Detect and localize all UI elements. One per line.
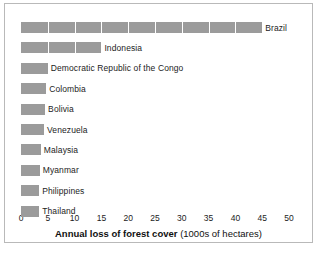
bar bbox=[21, 42, 101, 53]
gridline bbox=[262, 17, 263, 211]
bar-label: Indonesia bbox=[101, 43, 142, 53]
x-tick-label: 45 bbox=[257, 213, 266, 223]
x-tick-label: 15 bbox=[97, 213, 106, 223]
bar bbox=[21, 83, 46, 94]
bar-label: Myanmar bbox=[40, 165, 79, 175]
bar bbox=[21, 63, 48, 74]
bar bbox=[21, 206, 39, 217]
x-tick-label: 20 bbox=[123, 213, 132, 223]
x-tick-label: 25 bbox=[150, 213, 159, 223]
bar bbox=[21, 165, 40, 176]
gridline bbox=[182, 17, 183, 211]
bar bbox=[21, 144, 41, 155]
gridline bbox=[289, 17, 290, 211]
gridline bbox=[155, 17, 156, 211]
bar-label: Colombia bbox=[46, 84, 86, 94]
x-tick-label: 50 bbox=[284, 213, 293, 223]
bar bbox=[21, 104, 45, 115]
gridline bbox=[75, 17, 76, 211]
bar-label: Philippines bbox=[39, 186, 84, 196]
bar-label: Democratic Republic of the Congo bbox=[48, 63, 184, 73]
x-tick-label: 35 bbox=[204, 213, 213, 223]
bar-label: Bolivia bbox=[45, 104, 74, 114]
bar-label: Thailand bbox=[39, 206, 75, 216]
bar-label: Venezuela bbox=[44, 125, 88, 135]
plot-area: BrazilIndonesiaDemocratic Republic of th… bbox=[21, 17, 289, 211]
bar-label: Brazil bbox=[262, 23, 287, 33]
bar-label: Malaysia bbox=[41, 145, 78, 155]
chart-figure: BrazilIndonesiaDemocratic Republic of th… bbox=[4, 3, 313, 243]
x-axis-title-units: (1000s of hectares) bbox=[180, 228, 262, 239]
x-tick-label: 30 bbox=[177, 213, 186, 223]
gridline bbox=[209, 17, 210, 211]
bar bbox=[21, 185, 39, 196]
bar-row: Democratic Republic of the Congo bbox=[21, 63, 289, 74]
x-axis-title: Annual loss of forest cover (1000s of he… bbox=[5, 228, 312, 239]
x-tick-label: 40 bbox=[231, 213, 240, 223]
x-axis-title-bold: Annual loss of forest cover bbox=[55, 228, 177, 239]
bar bbox=[21, 124, 44, 135]
bar bbox=[21, 22, 262, 33]
gridline bbox=[235, 17, 236, 211]
